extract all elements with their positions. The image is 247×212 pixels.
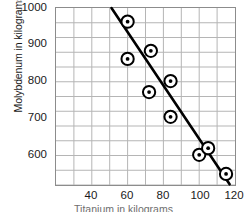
data-point: [164, 111, 176, 123]
x-axis-tick-labels: 40 60 80 100 120: [0, 189, 247, 205]
data-point: [121, 16, 133, 28]
scatter-chart: Molybdenum in kilograms 1000 900 800 700…: [0, 0, 247, 212]
x-axis-title: Titanium in kilograms: [0, 204, 247, 212]
x-tick-label: 60: [107, 189, 147, 201]
data-point: [202, 142, 214, 154]
x-tick-label: 40: [71, 189, 111, 201]
x-tick-label: 120: [214, 189, 247, 201]
data-layer: [56, 8, 235, 185]
y-tick-label: 800: [1, 74, 47, 86]
y-tick-label: 600: [1, 148, 47, 160]
y-tick-label: 900: [1, 37, 47, 49]
trend-line: [111, 8, 229, 184]
data-point: [121, 53, 133, 65]
y-tick-label: 700: [1, 111, 47, 123]
y-tick-label: 1000: [1, 1, 47, 13]
plot-area: [55, 7, 236, 186]
x-tick-label: 80: [143, 189, 183, 201]
data-point: [143, 86, 155, 98]
y-axis-tick-labels: 1000 900 800 700 600: [0, 0, 51, 212]
data-point: [220, 168, 232, 180]
data-point: [145, 45, 157, 57]
data-point: [164, 75, 176, 87]
